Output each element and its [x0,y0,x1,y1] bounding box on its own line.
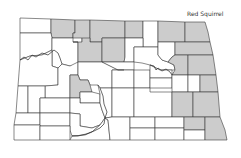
county-hettinger [40,113,70,126]
county-burke [51,19,75,38]
county-stark [40,98,70,113]
north-dakota-county-map [0,0,241,158]
county-mountrail [52,38,78,68]
county-bowman [14,125,40,140]
county-sheridan [112,70,134,88]
county-mchenry [102,38,125,62]
county-cass [193,92,220,117]
county-logan [130,117,155,128]
county-griggs [172,75,188,92]
county-golden-valley [16,86,28,113]
county-towner [143,21,158,47]
county-traill [200,75,218,92]
county-ransom [184,117,205,130]
county-steele [188,75,200,92]
county-stutsman [134,88,172,117]
county-wells [134,70,150,88]
county-rolette [125,21,143,38]
county-foster [150,78,172,88]
county-oliver [80,92,100,103]
county-lamoure [155,117,184,128]
county-slope [14,113,40,125]
county-richland [205,117,227,140]
county-barnes [172,92,193,117]
county-sargent [184,130,205,140]
county-divide [20,18,51,33]
county-walsh [175,42,213,55]
county-adams [40,126,70,140]
county-kidder [112,88,134,117]
county-pembina [185,22,210,42]
county-cavalier [158,21,185,42]
map-title: Red Squirrel [187,10,223,17]
county-mcintosh [130,128,155,140]
county-layer [14,18,227,140]
county-dickey [155,128,184,140]
county-grand-forks [188,55,216,75]
